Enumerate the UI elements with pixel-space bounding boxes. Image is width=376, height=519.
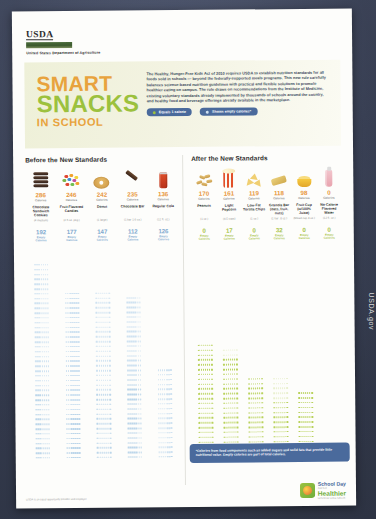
calorie-dot — [110, 447, 112, 449]
calorie-dot — [226, 436, 228, 438]
calorie-dot — [43, 346, 45, 348]
calorie-dot — [251, 388, 253, 390]
serving-size: (1 bar-1.6 oz.) — [118, 218, 147, 225]
calorie-dot — [48, 448, 50, 450]
calorie-dot — [228, 364, 230, 366]
calorie-bar-area — [293, 245, 318, 460]
calorie-dot — [39, 332, 41, 334]
calorie-dot — [135, 326, 137, 328]
calorie-dot — [136, 432, 138, 434]
calorie-dot — [44, 443, 46, 445]
calorie-dot — [286, 383, 288, 385]
calorie-dot — [251, 378, 253, 380]
calorie-dot — [287, 441, 289, 443]
calorie-dot — [158, 398, 160, 400]
hero-text-block: The Healthy, Hunger-Free Kids Act of 201… — [144, 60, 341, 148]
calorie-dot — [211, 374, 213, 376]
calorie-dot — [42, 375, 44, 377]
calorie-dot — [41, 361, 43, 363]
calorie-dot — [96, 326, 98, 328]
calorie-dot — [79, 409, 81, 411]
calorie-dot — [101, 428, 103, 430]
calorie-dot — [249, 378, 251, 380]
calorie-dot — [41, 303, 43, 305]
calorie-dot — [39, 269, 41, 271]
calorie-dot — [78, 341, 80, 343]
calorie-dot — [303, 436, 305, 438]
calorie-dot — [226, 369, 228, 371]
calorie-dot — [48, 419, 50, 421]
calorie-dot — [101, 433, 103, 435]
calorie-dot — [109, 317, 111, 319]
calorie-dot — [261, 397, 263, 399]
calorie-dot — [42, 428, 44, 430]
calorie-dot — [158, 442, 160, 444]
calorie-dot — [278, 436, 280, 438]
calorie-dot — [276, 378, 278, 380]
calorie-dot — [44, 390, 46, 392]
calorie-dot — [41, 351, 43, 353]
calorie-dot — [253, 402, 255, 404]
calorie-dot — [101, 413, 103, 415]
calorie-dot — [198, 345, 200, 347]
calorie-dot — [79, 428, 81, 430]
calorie-dot — [201, 369, 203, 371]
calorie-dot — [249, 441, 251, 443]
calorie-dot — [78, 331, 80, 333]
calorie-dot — [101, 452, 103, 454]
calorie-dot — [135, 355, 137, 357]
calorie-dot — [261, 378, 263, 380]
calorie-dot — [47, 269, 49, 271]
calorie-dot — [79, 433, 81, 435]
calorie-dot — [98, 355, 100, 357]
calorie-dot — [98, 302, 100, 304]
calorie-dot — [203, 369, 205, 371]
calorie-dot — [236, 373, 238, 375]
calorie-dot — [224, 417, 226, 419]
calorie-dot — [48, 356, 50, 358]
calorie-dot — [41, 288, 43, 290]
calorie-dot — [251, 431, 253, 433]
calorie-dot — [278, 431, 280, 433]
calorie-dot — [199, 403, 201, 405]
calorie-dot — [171, 432, 173, 434]
food-column: 170CaloriesPeanuts(1 oz.)0EmptyCalories — [191, 166, 219, 461]
panel-before: Before the New Standards 286CaloriesChoc… — [25, 155, 185, 486]
calorie-dot — [278, 383, 280, 385]
footer-fine-print: USDA is an equal opportunity provider an… — [26, 498, 87, 503]
calorie-dot — [137, 316, 139, 318]
calorie-label: Calories — [242, 196, 265, 200]
calorie-dot — [109, 423, 111, 425]
calorie-dot — [170, 389, 172, 391]
calorie-dot — [43, 308, 45, 310]
calorie-dot — [78, 336, 80, 338]
calorie-dot — [48, 341, 50, 343]
no-calorie-flavored-water-icon — [325, 170, 332, 187]
calorie-dot — [47, 322, 49, 324]
calorie-dot — [138, 413, 140, 415]
calorie-dot — [228, 422, 230, 424]
calorie-dot — [251, 397, 253, 399]
calorie-dot — [136, 389, 138, 391]
calorie-dot — [236, 354, 238, 356]
calorie-dot — [100, 307, 102, 309]
calorie-label: Calories — [118, 197, 147, 201]
calorie-dot — [40, 433, 42, 435]
calorie-dot — [223, 354, 225, 356]
calorie-dot — [236, 383, 238, 385]
calorie-dot — [201, 408, 203, 410]
calorie-dot — [202, 345, 204, 347]
calorie-dot — [276, 392, 278, 394]
calorie-dot — [42, 399, 44, 401]
calorie-dot — [249, 426, 251, 428]
calorie-dot — [41, 298, 43, 300]
calorie-dot — [40, 448, 42, 450]
calorie-dot — [301, 426, 303, 428]
calorie-dot — [278, 388, 280, 390]
agency-subtitle: United States Department of Agriculture — [26, 49, 342, 57]
calorie-dot — [162, 437, 164, 439]
calorie-bar-area — [268, 245, 293, 460]
calorie-dot — [203, 364, 205, 366]
calorie-dot — [249, 407, 251, 409]
calorie-dot — [103, 408, 105, 410]
